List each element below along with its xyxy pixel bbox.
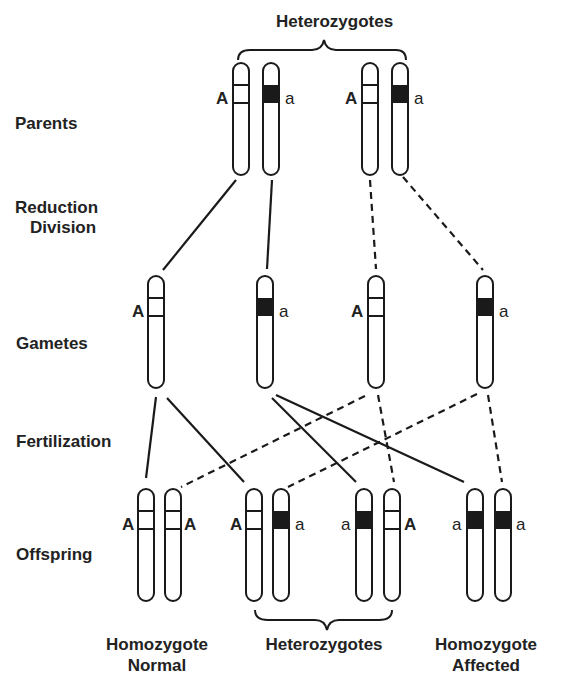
offspring-aA: [356, 489, 400, 601]
allele-label: a: [341, 515, 350, 535]
parent-chromosome-A-2: [362, 63, 378, 175]
allele-label: A: [351, 302, 363, 322]
heterozygotes-brace: [255, 610, 392, 630]
offspring-AA: [138, 489, 181, 601]
offspring-Aa: [246, 489, 289, 601]
allele-label: a: [516, 515, 525, 535]
caption-heterozygotes: Heterozygotes: [252, 634, 396, 655]
stage-reduction-line1: Reduction: [15, 198, 98, 218]
allele-label: A: [132, 302, 144, 322]
gamete-A-1: [148, 276, 164, 388]
parents-brace: [238, 40, 406, 60]
parents-title: Heterozygotes: [276, 12, 393, 32]
stage-parents: Parents: [15, 114, 77, 134]
parent-chromosome-A-1: [233, 63, 249, 175]
allele-label: A: [122, 515, 134, 535]
caption-homozygote-normal: Homozygote Normal: [98, 634, 216, 676]
parent-chromosome-a-1: [263, 63, 279, 175]
offspring-aa: [467, 489, 511, 601]
fertilization-lines: [146, 394, 502, 487]
stage-offspring: Offspring: [16, 545, 93, 565]
allele-label: a: [279, 302, 288, 322]
allele-label: a: [499, 302, 508, 322]
stage-reduction: Reduction Division: [15, 198, 98, 238]
stage-reduction-line2: Division: [15, 218, 98, 238]
caption-homozygote-affected: Homozygote Affected: [427, 634, 545, 676]
gamete-a-2: [477, 276, 493, 388]
allele-label: a: [295, 515, 304, 535]
stage-fertilization: Fertilization: [16, 432, 111, 452]
allele-label: a: [414, 89, 423, 109]
reduction-lines: [163, 177, 483, 270]
caption-homozygote-normal-line2: Normal: [98, 655, 216, 676]
gamete-a-1: [257, 276, 273, 388]
allele-label: A: [216, 89, 228, 109]
allele-label: A: [345, 89, 357, 109]
stage-gametes: Gametes: [16, 334, 88, 354]
allele-label: A: [404, 515, 416, 535]
parent-chromosome-a-2: [392, 63, 408, 175]
gamete-A-2: [368, 276, 384, 388]
caption-homozygote-affected-line1: Homozygote: [427, 634, 545, 655]
caption-homozygote-normal-line1: Homozygote: [98, 634, 216, 655]
allele-label: A: [184, 515, 196, 535]
caption-homozygote-affected-line2: Affected: [427, 655, 545, 676]
allele-label: a: [452, 515, 461, 535]
allele-label: A: [230, 515, 242, 535]
allele-label: a: [285, 89, 294, 109]
